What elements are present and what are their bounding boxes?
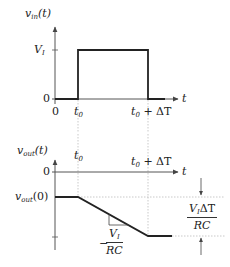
slope-numerator: VI [106, 228, 123, 243]
tick-label-t0-dt-bottom: t0 + ΔT [131, 156, 171, 169]
slope-denominator: RC [106, 243, 123, 256]
label-suffix: + ΔT [140, 155, 172, 168]
tick-label-vi: VI [34, 44, 45, 57]
tick-label-t0-bottom: t0 [74, 150, 83, 163]
label-sub: 0 [78, 111, 82, 119]
drop-denominator: RC [187, 218, 217, 231]
tick-label-t0-dt-top: t0 + ΔT [131, 106, 171, 119]
label-suffix: ΔT [200, 202, 215, 215]
label-sub: out [21, 196, 33, 204]
top-x-axis-label: t [182, 93, 186, 104]
label-suffix: + ΔT [140, 105, 172, 118]
label-base: V [34, 43, 42, 56]
tick-label-zero-y-top: 0 [43, 93, 50, 104]
drop-fraction: VIΔT RC [187, 203, 217, 231]
tick-label-zero-x-top: 0 [52, 106, 59, 117]
label-sub: out [23, 150, 35, 158]
drop-numerator: VIΔT [187, 203, 217, 218]
label-base: V [189, 202, 197, 215]
tick-label-t0-top: t0 [74, 106, 83, 119]
label-sub: I [42, 49, 45, 57]
label-suffix: (t) [35, 144, 48, 157]
tick-label-vout0: vout(0) [15, 191, 48, 204]
label-suffix: (0) [33, 190, 49, 203]
label-suffix: (t) [38, 7, 51, 20]
tick-label-zero-y-bottom: 0 [43, 166, 50, 177]
label-sub: 0 [78, 155, 82, 163]
label-base: V [109, 227, 117, 240]
input-pulse-signal [55, 50, 165, 99]
bottom-y-axis-label: vout(t) [17, 145, 48, 158]
label-sub: in [31, 13, 38, 21]
top-y-axis-label: vin(t) [25, 8, 51, 21]
bottom-x-axis-label: t [182, 166, 186, 177]
slope-fraction: VI RC [106, 228, 123, 256]
label-sub: I [117, 233, 120, 241]
